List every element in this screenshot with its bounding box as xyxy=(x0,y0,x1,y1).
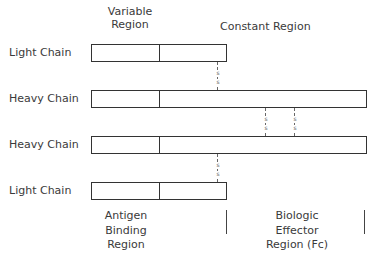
effector-region-label: Biologic Effector Region (Fc) xyxy=(260,209,334,253)
effector-line3: Region (Fc) xyxy=(260,238,334,253)
region-separator-left xyxy=(226,210,227,234)
disulfide-bond-heavy-hinge-2: s s xyxy=(291,108,299,136)
constant-region-header: Constant Region xyxy=(220,20,311,33)
effector-line1: Biologic xyxy=(260,209,334,224)
effector-line2: Effector xyxy=(260,224,334,239)
light-chain-2-box xyxy=(91,182,227,200)
disulfide-bond-heavy-hinge-1: s s xyxy=(262,108,270,136)
sulfur-label: s xyxy=(262,116,270,122)
disulfide-bond-light1-heavy1: s s xyxy=(214,62,222,90)
heavy-chain-2-box xyxy=(91,136,367,154)
sulfur-label: s xyxy=(214,70,222,76)
sulfur-label: s xyxy=(262,125,270,131)
variable-region-header: Variable Region xyxy=(100,5,160,31)
variable-constant-divider xyxy=(159,183,160,199)
chain-label-heavy-1: Heavy Chain xyxy=(9,92,79,105)
variable-header-line2: Region xyxy=(100,18,160,31)
sulfur-label: s xyxy=(214,162,222,168)
sulfur-label: s xyxy=(214,171,222,177)
disulfide-bond-heavy2-light2: s s xyxy=(214,154,222,182)
antigen-binding-region-label: Antigen Binding Region xyxy=(95,209,157,253)
sulfur-label: s xyxy=(291,125,299,131)
sulfur-label: s xyxy=(214,79,222,85)
chain-label-light-1: Light Chain xyxy=(9,46,71,59)
region-separator-right xyxy=(364,210,365,234)
sulfur-label: s xyxy=(291,116,299,122)
variable-constant-divider xyxy=(159,45,160,61)
antigen-line3: Region xyxy=(95,238,157,253)
chain-label-heavy-2: Heavy Chain xyxy=(9,138,79,151)
light-chain-1-box xyxy=(91,44,227,62)
heavy-chain-1-box xyxy=(91,90,367,108)
variable-header-line1: Variable xyxy=(100,5,160,18)
antigen-line2: Binding xyxy=(95,224,157,239)
variable-constant-divider xyxy=(159,91,160,107)
antigen-line1: Antigen xyxy=(95,209,157,224)
chain-label-light-2: Light Chain xyxy=(9,184,71,197)
variable-constant-divider xyxy=(159,137,160,153)
